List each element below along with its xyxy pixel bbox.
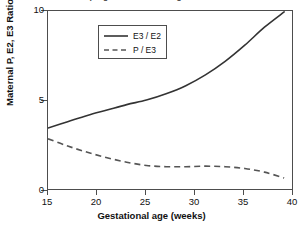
y-tick-label-10: 10 bbox=[14, 4, 44, 15]
x-tick-label-15: 15 bbox=[32, 196, 62, 207]
plot-lines bbox=[48, 11, 294, 191]
y-axis-title: Maternal P, E2, E3 Ratio bbox=[4, 0, 15, 138]
legend-label-e3-e2: E3 / E2 bbox=[133, 31, 161, 41]
x-tick-label-35: 35 bbox=[228, 196, 258, 207]
chart-legend: E3 / E2 P / E3 bbox=[98, 25, 167, 59]
series-line-p-e3 bbox=[48, 139, 284, 178]
plot-area: E3 / E2 P / E3 bbox=[47, 10, 293, 190]
legend-swatch-solid-icon bbox=[103, 31, 129, 41]
x-tick-label-25: 25 bbox=[130, 196, 160, 207]
chart-figure: pregnancies surviving at term Maternal P… bbox=[0, 0, 303, 229]
legend-label-p-e3: P / E3 bbox=[133, 45, 156, 55]
y-tick-label-5: 5 bbox=[14, 94, 44, 105]
x-tick-label-30: 30 bbox=[179, 196, 209, 207]
y-tick-label-0: 0 bbox=[14, 184, 44, 195]
legend-entry-p-e3: P / E3 bbox=[103, 43, 162, 57]
legend-swatch-dashed-icon bbox=[103, 45, 129, 55]
x-tick-label-40: 40 bbox=[277, 196, 303, 207]
x-tick-label-20: 20 bbox=[81, 196, 111, 207]
x-axis-title: Gestational age (weeks) bbox=[0, 210, 303, 221]
chart-title: pregnancies surviving at term bbox=[0, 0, 303, 1]
legend-entry-e3-e2: E3 / E2 bbox=[103, 29, 162, 43]
